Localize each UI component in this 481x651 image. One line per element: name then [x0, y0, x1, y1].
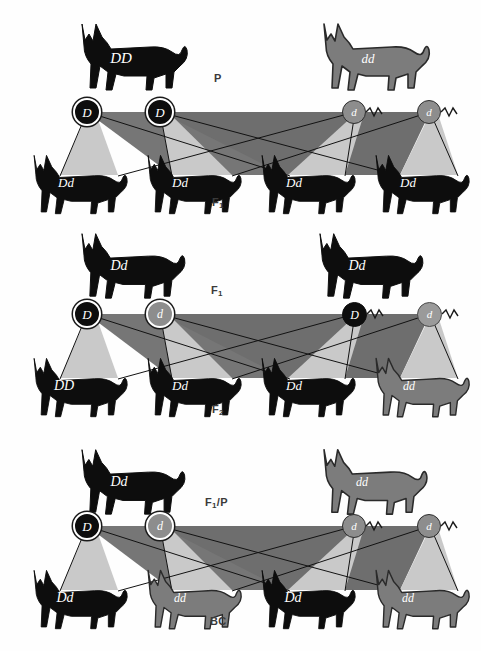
offspring-cat: Dd: [128, 346, 246, 422]
cat-silhouette-black: [242, 558, 360, 634]
cat-silhouette-black: [62, 220, 188, 304]
cat-silhouette-black: [300, 220, 426, 304]
cat-silhouette-black: [14, 558, 132, 634]
sperm-tail-icon: [366, 106, 384, 118]
cat-silhouette-black: [356, 143, 474, 219]
allele-label: D: [82, 520, 91, 533]
gamete-disc: d: [146, 512, 174, 540]
generation-label-cross: F1/P: [205, 496, 228, 508]
gamete-disc: d: [417, 100, 441, 124]
panel-f1-to-f2: Dd Dd F1 D d D: [0, 216, 481, 436]
gamete-disc: d: [417, 302, 442, 327]
allele-label: D: [82, 106, 91, 119]
offspring-cat: dd: [356, 558, 474, 634]
allele-label: d: [426, 107, 432, 118]
cat-silhouette-gray: [128, 558, 246, 634]
cat-silhouette-black: [128, 143, 246, 219]
gamete-disc: D: [73, 98, 101, 126]
offspring-cat: Dd: [14, 143, 132, 219]
allele-label: d: [426, 521, 432, 532]
allele-label: D: [350, 309, 359, 321]
cat-silhouette-black: [62, 10, 190, 96]
gamete-disc: D: [146, 98, 174, 126]
parent-cat-right: Dd: [300, 220, 426, 304]
sperm-tail-icon: [441, 520, 459, 532]
cat-silhouette-black: [242, 346, 360, 422]
offspring-cat: dd: [356, 346, 474, 422]
generation-label-offspring: F1: [212, 196, 224, 208]
offspring-cat: DD: [14, 346, 132, 422]
parent-cat-left: DD: [62, 10, 190, 96]
sperm-tail-icon: [366, 520, 384, 532]
gamete-disc: d: [417, 514, 441, 538]
allele-label: d: [351, 521, 357, 532]
parent-cat-left: Dd: [62, 220, 188, 304]
offspring-cat: Dd: [356, 143, 474, 219]
parent-cat-right: dd: [304, 10, 432, 96]
allele-label: D: [82, 308, 91, 321]
genetics-diagram: DD dd P D D d: [0, 0, 481, 651]
allele-label: d: [351, 107, 357, 118]
cat-silhouette-gray: [304, 10, 432, 96]
gamete-disc: d: [342, 100, 366, 124]
parent-cat-left: Dd: [62, 436, 188, 520]
cat-silhouette-gray: [304, 436, 430, 520]
allele-label: d: [157, 520, 163, 532]
cat-silhouette-black: [14, 143, 132, 219]
cat-silhouette-black: [242, 143, 360, 219]
panel-p-to-f1: DD dd P D D d: [0, 0, 481, 218]
gamete-disc: D: [73, 300, 101, 328]
generation-label-cross: P: [214, 72, 222, 84]
generation-label-offspring: F2: [212, 403, 224, 415]
offspring-cat: Dd: [242, 143, 360, 219]
cat-silhouette-black: [62, 436, 188, 520]
panel-backcross: Dd dd F1/P D d d: [0, 432, 481, 651]
offspring-cat: Dd: [242, 558, 360, 634]
cat-silhouette-black: [14, 346, 132, 422]
allele-label: d: [157, 308, 163, 320]
offspring-cat: dd: [128, 558, 246, 634]
generation-label-offspring: BC: [210, 615, 227, 627]
gamete-disc: D: [73, 512, 101, 540]
sperm-tail-icon: [367, 308, 385, 320]
cat-silhouette-gray: [356, 346, 474, 422]
sperm-tail-icon: [442, 308, 460, 320]
parent-cat-right: dd: [304, 436, 430, 520]
generation-label-cross: F1: [211, 284, 223, 296]
cat-silhouette-black: [128, 346, 246, 422]
allele-label: d: [427, 309, 433, 320]
gamete-disc: d: [342, 514, 366, 538]
gamete-disc: D: [342, 302, 367, 327]
offspring-cat: Dd: [14, 558, 132, 634]
sperm-tail-icon: [441, 106, 459, 118]
gamete-disc: d: [146, 300, 174, 328]
offspring-cat: Dd: [242, 346, 360, 422]
cat-silhouette-gray: [356, 558, 474, 634]
allele-label: D: [155, 106, 164, 119]
offspring-cat: Dd: [128, 143, 246, 219]
